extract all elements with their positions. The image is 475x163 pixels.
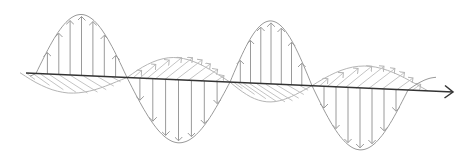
magnetic-field-vector [368, 69, 395, 89]
magnetic-field-vector [33, 74, 49, 86]
magnetic-field-vector [276, 85, 299, 99]
magnetic-field-vector [97, 77, 113, 87]
em-wave-canvas [0, 0, 475, 163]
magnetic-field-vector [133, 70, 142, 78]
propagation-axis [26, 73, 453, 98]
magnetic-field-vector [215, 76, 224, 82]
magnetic-field-vector [188, 64, 211, 81]
magnetic-field-vector [412, 84, 421, 90]
magnetic-field-vector [201, 69, 217, 81]
magnetic-field-vector [139, 64, 155, 78]
magnetic-field-vector [71, 76, 98, 93]
magnetic-field-vector [356, 66, 384, 88]
em-wave-diagram [0, 0, 475, 163]
magnetic-field-vector [257, 84, 285, 102]
magnetic-field-vector [238, 83, 254, 95]
magnetic-field-vector [176, 60, 203, 80]
magnetic-field-vector [345, 66, 372, 88]
magnetic-field-vector [327, 73, 343, 87]
magnetic-field-vector [319, 79, 328, 87]
magnetic-field-vector [243, 83, 266, 99]
magnetic-field-vector [84, 76, 107, 90]
